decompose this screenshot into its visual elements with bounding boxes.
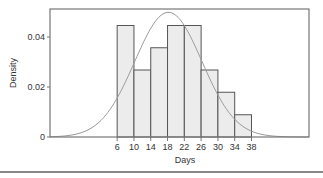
y-tick-label: 0.02 [27, 82, 45, 92]
y-tick-label: 0.04 [27, 32, 45, 42]
x-tick-label: 26 [196, 142, 206, 152]
y-axis: 00.020.04 [27, 32, 50, 142]
x-tick-label: 22 [179, 142, 189, 152]
x-tick-label: 30 [213, 142, 223, 152]
x-tick-label: 18 [163, 142, 173, 152]
bottom-divider [0, 171, 323, 173]
y-axis-title: Density [8, 57, 18, 88]
histogram-bar [134, 70, 151, 137]
x-tick-label: 38 [246, 142, 256, 152]
histogram-chart: 00.020.04 61014182226303438 Days Density [0, 0, 323, 178]
x-tick-label: 34 [230, 142, 240, 152]
histogram-bar [235, 115, 252, 137]
x-axis: 61014182226303438 [115, 137, 257, 152]
x-axis-title: Days [175, 155, 196, 165]
x-tick-label: 10 [129, 142, 139, 152]
histogram-bar [168, 26, 185, 138]
x-tick-label: 6 [115, 142, 120, 152]
histogram-bar [201, 70, 218, 137]
histogram-bar [151, 48, 168, 137]
x-tick-label: 14 [146, 142, 156, 152]
histogram-bars [117, 26, 251, 138]
y-tick-label: 0 [40, 132, 45, 142]
